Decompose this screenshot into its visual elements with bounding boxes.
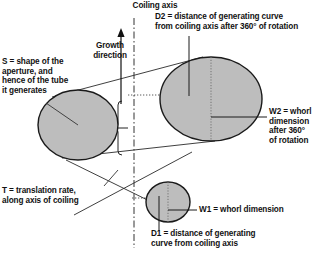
d2-label: D2 = distance of generating curve from c… <box>155 12 321 31</box>
w1-label: W1 = whorl dimension <box>199 205 321 215</box>
t-label: T = translation rate, along axis of coil… <box>2 186 107 205</box>
growth-direction-arrow <box>117 28 124 104</box>
growth-direction-label: Growth direction <box>88 41 132 60</box>
s-label: S = shape of the aperture, and hence of … <box>2 57 84 95</box>
w2-label: W2 = whorl dimension after 360° of rotat… <box>269 107 321 145</box>
t-label-leader <box>104 170 118 186</box>
d1-label: D1 = distance of generating curve from c… <box>151 229 321 248</box>
coiling-axis-label: Coiling axis <box>110 1 200 11</box>
coiling-parameters-diagram: Coiling axis Growth direction D2 = dista… <box>0 0 321 256</box>
